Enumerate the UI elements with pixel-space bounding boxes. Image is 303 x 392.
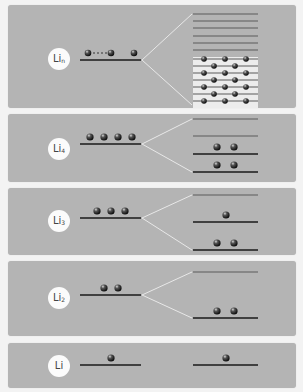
diagram-li-3 xyxy=(8,188,296,255)
diagram-li-1 xyxy=(8,343,296,388)
panel-li-n: Lin xyxy=(8,5,296,108)
panel-li-2: Li2 xyxy=(8,261,296,336)
diagram-li-2 xyxy=(8,261,296,336)
panel-li-1: Li xyxy=(8,343,296,388)
panel-li-3: Li3 xyxy=(8,188,296,255)
panel-li-4: Li4 xyxy=(8,114,296,182)
diagram-li-4 xyxy=(8,114,296,182)
diagram-li-n xyxy=(8,5,296,108)
